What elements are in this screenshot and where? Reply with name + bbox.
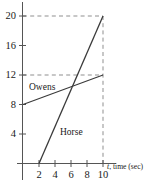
y-tick-label-16: 16: [0, 41, 16, 52]
graph-figure: 20 16 12 8 4 2 4 6 8 10 Owens Horse t, t…: [0, 0, 155, 187]
y-tick-label-12: 12: [0, 70, 16, 81]
x-tick-label-10: 10: [96, 170, 110, 181]
y-tick-label-8: 8: [0, 100, 16, 111]
x-tick-label-6: 6: [64, 170, 78, 181]
x-axis-title: t, time (sec): [107, 163, 143, 171]
x-tick-label-4: 4: [48, 170, 62, 181]
x-tick-label-2: 2: [32, 170, 46, 181]
series-label-owens: Owens: [29, 83, 55, 93]
x-tick-label-8: 8: [80, 170, 94, 181]
series-label-horse: Horse: [60, 128, 83, 138]
y-tick-label-20: 20: [0, 11, 16, 22]
plot-canvas: [0, 0, 155, 187]
y-tick-label-4: 4: [0, 129, 16, 140]
x-axis-title-rest: , time (sec): [109, 162, 143, 171]
